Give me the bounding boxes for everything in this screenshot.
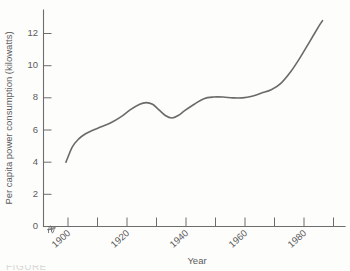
- y-axis-title: Per capita power consumption (kilowatts): [3, 31, 14, 204]
- y-tick-label-8: 8: [33, 91, 38, 102]
- y-tick-label-12: 12: [27, 27, 38, 38]
- x-axis-title: Year: [187, 255, 206, 266]
- y-tick-label-6: 6: [33, 124, 38, 135]
- x-tick-label-1940: 1940: [167, 227, 190, 249]
- x-tick-label-1920: 1920: [108, 227, 131, 249]
- x-tick-label-1980: 1980: [285, 227, 308, 249]
- data-series-line: [66, 21, 323, 163]
- x-tick-label-1960: 1960: [226, 227, 249, 249]
- line-chart: 0 2 4 6 8 10 12 1900 1920 1940 1960 1980…: [0, 0, 350, 271]
- y-tick-label-2: 2: [33, 188, 38, 199]
- x-axis-ticks: [68, 218, 334, 227]
- figure-container: 0 2 4 6 8 10 12 1900 1920 1940 1960 1980…: [0, 0, 350, 271]
- y-tick-label-4: 4: [33, 156, 38, 167]
- y-tick-label-0: 0: [33, 220, 38, 231]
- y-axis-ticks: [44, 34, 52, 227]
- x-tick-label-1900: 1900: [49, 227, 72, 249]
- y-tick-label-10: 10: [27, 59, 38, 70]
